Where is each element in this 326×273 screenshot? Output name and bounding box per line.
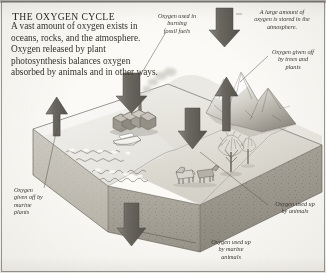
caption-fossil-fuels: Oxygen used in burning fossil fuels bbox=[148, 12, 206, 34]
caption-trees-plants: Oxygen given off by trees and plants bbox=[262, 48, 324, 70]
top-rule bbox=[0, 0, 326, 3]
caption-atmosphere: A large amount of oxygen is stored in th… bbox=[243, 8, 321, 30]
arrow-down-atmosphere bbox=[209, 8, 240, 47]
caption-marine-plants: Oxygen given off by marine plants bbox=[14, 186, 62, 216]
caption-marine-animals: Oxygen used up by marine animals bbox=[198, 238, 264, 260]
figure-page: THE OXYGEN CYCLE A vast amount of oxygen… bbox=[0, 0, 326, 273]
figure-body-text: A vast amount of oxygen exists in oceans… bbox=[11, 21, 163, 79]
caption-animals: Oxygen used up by animals bbox=[267, 200, 323, 215]
